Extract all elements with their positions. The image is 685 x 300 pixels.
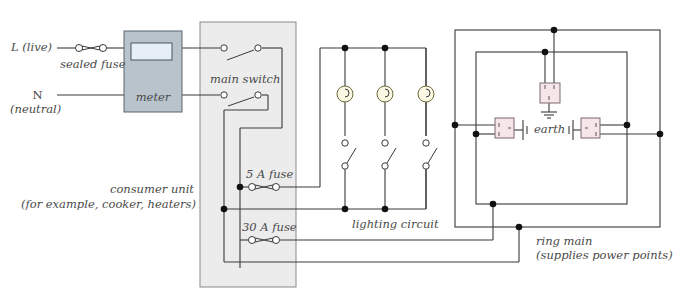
lamp-icon-3 bbox=[418, 86, 434, 102]
label-5a-fuse: 5 A fuse bbox=[246, 167, 293, 181]
lamp-icon-1 bbox=[337, 86, 353, 102]
label-lighting-circuit: lighting circuit bbox=[352, 217, 439, 231]
earth-symbol-left bbox=[523, 120, 527, 140]
light-switch-1 bbox=[341, 136, 356, 169]
sealed-fuse-icon bbox=[76, 45, 107, 52]
label-ring-main-desc: (supplies power points) bbox=[536, 248, 673, 262]
meter-display bbox=[131, 43, 172, 60]
earth-symbol-right bbox=[569, 120, 573, 140]
label-earth: earth bbox=[534, 122, 565, 136]
label-consumer-unit-examples: (for example, cooker, heaters) bbox=[0, 197, 196, 211]
light-switch-3 bbox=[422, 136, 437, 169]
label-meter: meter bbox=[124, 90, 182, 104]
light-switch-2 bbox=[381, 136, 396, 169]
lamp-icon-2 bbox=[377, 86, 393, 102]
label-30a-fuse: 30 A fuse bbox=[242, 220, 297, 234]
socket-top bbox=[540, 83, 560, 103]
label-ring-main: ring main bbox=[536, 234, 592, 248]
label-live: L (live) bbox=[0, 40, 52, 54]
socket-left bbox=[495, 118, 514, 138]
socket-right bbox=[581, 118, 600, 138]
label-consumer-unit: consumer unit bbox=[0, 182, 194, 196]
label-neutral: (neutral) bbox=[10, 102, 61, 116]
label-main-switch: main switch bbox=[210, 72, 280, 86]
ground-symbol bbox=[541, 112, 557, 118]
label-neutral-n: N bbox=[20, 88, 55, 102]
label-sealed-fuse: sealed fuse bbox=[60, 57, 125, 71]
